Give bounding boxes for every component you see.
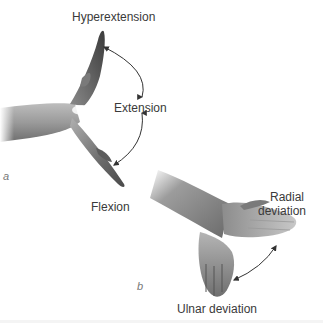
label-extension: Extension [114, 101, 167, 115]
label-ulnar-deviation: Ulnar deviation [177, 302, 257, 316]
panel-a-hand-flexion [70, 118, 125, 187]
label-radial: Radial [262, 190, 312, 204]
wrist-highlight [72, 105, 92, 115]
panel-b-forearm [150, 170, 230, 238]
deviation-arc-arrow [234, 246, 276, 280]
panel-a-forearm [0, 100, 80, 146]
panel-letter-b: b [137, 280, 143, 292]
panel-letter-a: a [3, 170, 9, 182]
panel-a-hand-hyperextension [70, 31, 105, 106]
label-hyperextension: Hyperextension [72, 10, 155, 24]
panel-b-hand-ulnar [199, 232, 235, 297]
label-flexion: Flexion [91, 200, 130, 214]
wrist-motion-illustration [0, 0, 323, 323]
label-radial-deviation: deviation [258, 204, 306, 218]
